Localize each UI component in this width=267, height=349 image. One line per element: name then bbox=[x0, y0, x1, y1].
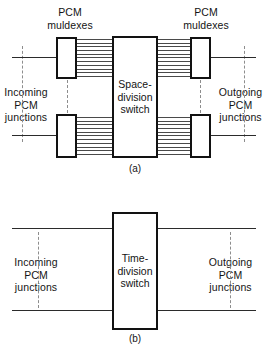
incoming-junction-line-bottom bbox=[12, 135, 57, 136]
space-division-switch-box[interactable]: Space- division switch bbox=[112, 36, 158, 158]
incoming-junction-line-top bbox=[12, 57, 57, 58]
pcm-muldex-box-top-left[interactable] bbox=[56, 37, 77, 79]
figure-root: PCM muldexes PCM muldexes bbox=[0, 0, 267, 349]
left-muldex-stack-dash-a bbox=[67, 80, 68, 113]
pcm-muldex-box-bottom-left[interactable] bbox=[56, 114, 77, 158]
incoming-junction-line-bottom-b bbox=[12, 310, 114, 311]
outgoing-junction-line-top bbox=[208, 57, 256, 58]
pcm-muldex-box-bottom-right[interactable] bbox=[190, 114, 211, 158]
trunk-bundle-bottom-left bbox=[76, 117, 114, 155]
outgoing-junction-line-top-b bbox=[156, 228, 256, 229]
time-division-switch-label: Time- division switch bbox=[117, 252, 152, 290]
outgoing-junctions-dash-a bbox=[244, 46, 245, 142]
space-division-switch-label: Space- division switch bbox=[117, 78, 152, 116]
right-muldex-stack-dash-a bbox=[200, 80, 201, 113]
incoming-pcm-junctions-label-b: Incoming PCM junctions bbox=[8, 256, 64, 294]
trunk-bundle-bottom-right bbox=[156, 117, 192, 155]
outgoing-junctions-dash-b bbox=[230, 232, 231, 308]
time-division-switch-box[interactable]: Time- division switch bbox=[112, 212, 158, 330]
incoming-pcm-junctions-label-a: Incoming PCM junctions bbox=[0, 86, 52, 124]
incoming-junctions-dash-a bbox=[22, 46, 23, 142]
pcm-muldexes-label-left: PCM muldexes bbox=[34, 6, 106, 31]
pcm-muldex-box-top-right[interactable] bbox=[190, 37, 211, 79]
incoming-junctions-dash-b bbox=[38, 232, 39, 308]
pcm-muldexes-label-right: PCM muldexes bbox=[170, 6, 242, 31]
outgoing-junction-line-bottom-b bbox=[156, 310, 256, 311]
outgoing-pcm-junctions-label-a: Outgoing PCM junctions bbox=[214, 86, 267, 124]
panel-b-caption: (b) bbox=[115, 333, 155, 344]
trunk-bundle-top-left bbox=[76, 39, 114, 77]
trunk-bundle-top-right bbox=[156, 39, 192, 77]
panel-a-caption: (a) bbox=[115, 163, 155, 174]
outgoing-junction-line-bottom bbox=[208, 135, 256, 136]
incoming-junction-line-top-b bbox=[12, 228, 114, 229]
